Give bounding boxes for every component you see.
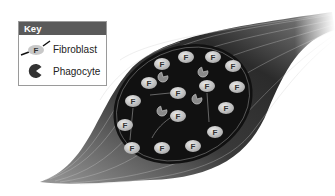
svg-text:F: F	[176, 89, 181, 98]
svg-text:F: F	[213, 128, 218, 137]
fibroblast-cell: F	[185, 140, 201, 152]
svg-text:F: F	[235, 83, 240, 92]
fibroblast-cell: F	[154, 142, 170, 154]
svg-text:F: F	[34, 46, 39, 55]
phagocyte-icon	[19, 62, 53, 80]
fibroblast-cell: F	[124, 142, 140, 154]
svg-text:F: F	[224, 104, 229, 113]
fibroblast-cell: F	[218, 102, 234, 114]
svg-text:F: F	[131, 97, 136, 106]
fibroblast-cell: F	[225, 60, 241, 72]
fibroblast-cell: F	[170, 87, 186, 99]
fibroblast-icon: F	[19, 40, 53, 58]
legend-title: Key	[19, 22, 106, 35]
svg-text:F: F	[123, 121, 128, 130]
svg-text:F: F	[211, 53, 216, 62]
legend-item-phagocyte: Phagocyte	[19, 62, 100, 80]
legend-label-phagocyte: Phagocyte	[53, 66, 100, 77]
fibroblast-cell: F	[207, 126, 223, 138]
svg-text:F: F	[147, 79, 152, 88]
svg-text:F: F	[184, 53, 189, 62]
fibroblast-cell: F	[117, 119, 133, 131]
fibroblast-cell: F	[199, 80, 215, 92]
fibroblast-cell: F	[125, 95, 141, 107]
fibroblast-cell: F	[229, 81, 245, 93]
svg-text:F: F	[176, 112, 181, 121]
fibroblast-cell: F	[170, 110, 186, 122]
fibroblast-cell: F	[154, 58, 170, 70]
svg-text:F: F	[160, 60, 165, 69]
svg-text:F: F	[160, 144, 165, 153]
fibroblast-cell: F	[178, 51, 194, 63]
svg-text:F: F	[130, 144, 135, 153]
legend-key: Key F Fibroblast Phagocyte	[18, 21, 107, 86]
fibroblast-cell: F	[141, 77, 157, 89]
svg-text:F: F	[205, 82, 210, 91]
legend-label-fibroblast: Fibroblast	[53, 44, 97, 55]
fibroblast-cell: F	[205, 51, 221, 63]
svg-text:F: F	[191, 142, 196, 151]
svg-text:F: F	[231, 62, 236, 71]
legend-item-fibroblast: F Fibroblast	[19, 40, 97, 58]
